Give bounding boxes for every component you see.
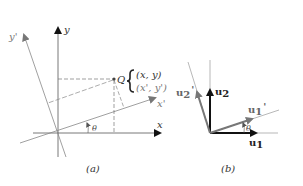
rotation-diagram: Q (x, y) (x', y') θ y y' x x' (a) θ u1 u… — [0, 0, 303, 186]
x-prime-axis — [20, 98, 155, 143]
y-label: y — [63, 24, 70, 35]
figure-a: Q (x, y) (x', y') θ y y' x x' (a) — [8, 24, 167, 174]
x-label: x — [157, 119, 163, 130]
angle-arc — [87, 123, 88, 133]
coords-rotated: (x', y') — [136, 82, 167, 93]
u2-label: u2 — [215, 86, 229, 99]
caption-b: (b) — [221, 163, 235, 174]
y-prime-label: y' — [8, 31, 17, 42]
caption-a: (a) — [86, 163, 100, 174]
u1-label: u1 — [249, 137, 263, 150]
brace — [127, 70, 134, 92]
y-prime-axis — [24, 35, 66, 157]
x-prime-label: x' — [157, 98, 165, 109]
u2-prime-vector — [197, 92, 210, 133]
theta-label: θ — [92, 124, 97, 133]
figure-b: θ u1 u2 u1' u2' (b) — [176, 60, 279, 174]
angle-arc-b — [243, 123, 244, 133]
coords-original: (x, y) — [136, 69, 162, 80]
point-q-label: Q — [117, 74, 125, 85]
u2-prime-label: u2' — [176, 84, 194, 100]
u1-prime-label: u1' — [248, 101, 266, 117]
theta-label-b: θ — [246, 124, 251, 133]
point-q — [112, 77, 115, 80]
